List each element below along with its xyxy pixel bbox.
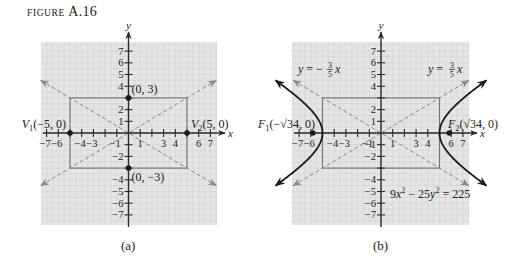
x-tick-label: 6 xyxy=(196,138,201,149)
y-tick-label: −6 xyxy=(112,198,123,209)
asymptote-equation-label: y = xyxy=(427,62,443,76)
x-tick-label: −1 xyxy=(110,138,121,149)
point-marker xyxy=(126,95,132,101)
x-tick-label: 3 xyxy=(161,138,166,149)
y-tick-label: 6 xyxy=(118,57,123,68)
svg-text:(0, −3): (0, −3) xyxy=(132,170,165,184)
x-tick-label: 4 xyxy=(425,138,431,149)
y-tick-label: 7 xyxy=(118,46,123,57)
x-tick-label: 1 xyxy=(138,138,143,149)
x-tick-label: 6 xyxy=(449,138,454,149)
x-tick-label: −4 xyxy=(75,138,87,149)
y-tick-label: 2 xyxy=(118,104,123,115)
y-tick-label: 1 xyxy=(118,116,123,127)
y-tick-label: −6 xyxy=(365,198,376,209)
x-tick-label: 7 xyxy=(208,138,213,149)
y-tick-label: 5 xyxy=(118,69,123,80)
caption-a: (a) xyxy=(121,238,135,254)
y-tick-label: 6 xyxy=(371,57,376,68)
y-tick-label: −5 xyxy=(365,186,376,197)
y-tick-label: 4 xyxy=(118,81,124,92)
svg-text:x: x xyxy=(456,62,463,76)
chart-panel-a: xy−7−6−4−3−113467765421−2−4−5−6−7V1(−5, … xyxy=(22,19,233,227)
y-tick-label: 4 xyxy=(371,81,377,92)
x-tick-label: 3 xyxy=(413,138,418,149)
x-tick-label: −3 xyxy=(339,138,350,149)
svg-text:(0, 3): (0, 3) xyxy=(132,82,158,96)
y-axis-label: y xyxy=(378,19,384,31)
y-tick-label: −2 xyxy=(365,151,376,162)
svg-text:5: 5 xyxy=(450,70,454,79)
x-tick-label: 7 xyxy=(460,138,465,149)
y-tick-label: 5 xyxy=(371,69,376,80)
x-tick-label: −6 xyxy=(304,138,315,149)
y-tick-label: 7 xyxy=(371,46,376,57)
svg-text:3: 3 xyxy=(450,61,454,70)
x-tick-label: 4 xyxy=(173,138,179,149)
point-marker xyxy=(67,130,73,136)
svg-text:x: x xyxy=(334,62,341,76)
svg-text:5: 5 xyxy=(328,70,332,79)
y-axis-label: y xyxy=(125,19,131,31)
caption-b: (b) xyxy=(373,238,388,254)
svg-text:F2(√34, 0): F2(√34, 0) xyxy=(447,117,498,133)
svg-text:V2(5, 0): V2(5, 0) xyxy=(191,117,229,133)
x-tick-label: −7 xyxy=(40,138,51,149)
y-tick-label: −1 xyxy=(365,139,376,150)
y-tick-label: −5 xyxy=(112,186,123,197)
y-tick-label: −7 xyxy=(365,209,376,220)
y-tick-label: 1 xyxy=(371,116,376,127)
y-tick-label: −7 xyxy=(112,209,123,220)
chart-panel-b: xy−7−6−4−3−113467765421−1−2−4−5−6−7F1(−√… xyxy=(257,19,498,227)
asymptote-equation-label: y = − xyxy=(297,62,323,76)
y-tick-label: 2 xyxy=(371,104,376,115)
point-marker xyxy=(126,165,132,171)
svg-text:3: 3 xyxy=(328,61,332,70)
x-tick-label: −3 xyxy=(86,138,97,149)
svg-text:V1(−5, 0): V1(−5, 0) xyxy=(22,117,66,133)
x-tick-label: −4 xyxy=(327,138,339,149)
x-tick-label: 1 xyxy=(390,138,395,149)
focus-marker xyxy=(310,130,316,136)
svg-text:F1(−√34, 0): F1(−√34, 0) xyxy=(257,117,315,133)
y-tick-label: −4 xyxy=(365,174,377,185)
figure-canvas: xy−7−6−4−3−113467765421−2−4−5−6−7V1(−5, … xyxy=(0,0,527,265)
x-tick-label: −7 xyxy=(292,138,303,149)
y-tick-label: −4 xyxy=(112,174,124,185)
point-marker xyxy=(184,130,190,136)
focus-marker xyxy=(446,130,452,136)
y-tick-label: −2 xyxy=(112,151,123,162)
x-tick-label: −6 xyxy=(51,138,62,149)
